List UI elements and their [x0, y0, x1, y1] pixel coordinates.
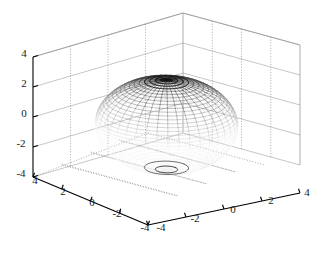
mesh-meridian-22-7	[142, 96, 145, 99]
mesh-meridian-28-12	[185, 115, 186, 119]
mesh-meridian-12-31	[128, 151, 132, 154]
mesh-meridian-7-29	[157, 138, 158, 142]
mesh-meridian-18-15	[102, 113, 104, 116]
mesh-meridian-1-29	[202, 143, 205, 146]
mesh-meridian-10-24	[125, 122, 126, 126]
mesh-meridian-38-30	[210, 153, 214, 156]
mesh-meridian-2-28	[198, 138, 200, 142]
mesh-meridian-2-31	[191, 148, 194, 151]
x-tick-mark-2	[223, 205, 225, 209]
y-tick-label-2: 0	[89, 196, 95, 208]
x-tick-mark-4	[299, 189, 301, 193]
mesh-meridian-23-8	[146, 100, 148, 103]
mesh-meridian-14-27	[108, 142, 111, 145]
mesh-meridian-14-24	[101, 132, 103, 136]
mesh-meridian-22-8	[140, 99, 143, 102]
mesh-meridian-11-26	[121, 131, 123, 135]
mesh-meridian-27-12	[177, 116, 178, 120]
mesh-meridian-20-15	[112, 119, 114, 123]
mesh-meridian-20-18	[110, 130, 111, 134]
x-tick-label-4: 4	[304, 186, 310, 198]
mesh-meridian-3-23	[196, 117, 197, 121]
mesh-meridian-4-28	[182, 135, 183, 139]
mesh-meridian-28-11	[184, 112, 185, 116]
mesh-meridian-30-12	[201, 113, 203, 117]
mesh-parallel-20	[95, 103, 238, 146]
mesh-meridian-3-24	[195, 121, 196, 125]
mesh-meridian-38-26	[224, 140, 227, 143]
mesh-meridian-34-9	[211, 96, 215, 99]
mesh-meridian-11-32	[136, 152, 139, 155]
mesh-meridian-3-28	[190, 136, 192, 140]
mesh-meridian-7-30	[158, 142, 159, 146]
mesh-meridian-27-6	[172, 95, 173, 98]
mesh-meridian-12-34	[140, 159, 144, 161]
y-axis-tick-labels: 420-2-4	[32, 174, 150, 233]
mesh-meridian-13-21	[102, 118, 103, 122]
mesh-parallel-22	[96, 111, 237, 154]
z-tick-label-2: 0	[21, 107, 27, 119]
mesh-meridian-9-27	[138, 132, 139, 136]
mesh-meridian-19-5	[138, 87, 142, 89]
sphere-mesh-surface	[95, 75, 238, 175]
mesh-meridian-25-7	[161, 98, 162, 101]
mesh-meridian-31-12	[208, 111, 210, 115]
z-tick-label-3: -2	[16, 137, 25, 149]
mesh-meridian-27-4	[170, 89, 171, 92]
mesh-meridian-39-26	[220, 137, 222, 140]
z-tick-label-1: 2	[21, 77, 27, 89]
mesh-meridian-31-7	[193, 95, 196, 98]
mesh-meridian-39-28	[214, 144, 217, 147]
mesh-meridian-24-3	[160, 86, 162, 88]
mesh-meridian-23-16	[136, 129, 137, 133]
z-tick-mark-2	[33, 115, 38, 117]
x-axis-tick-labels: -4-2024	[156, 186, 310, 233]
mesh-meridian-21-12	[124, 110, 126, 114]
mesh-meridian-3-25	[194, 125, 195, 129]
x-tick-label-0: -4	[156, 221, 166, 233]
mesh-meridian-5-29	[173, 138, 174, 142]
mesh-meridian-21-22	[118, 147, 119, 150]
mesh-meridian-30-17	[208, 132, 209, 136]
mesh-meridian-0-21	[223, 117, 224, 121]
mesh-meridian-30-15	[206, 124, 207, 128]
mesh-meridian-27-10	[175, 108, 176, 112]
mesh-meridian-24-12	[149, 115, 150, 119]
mesh-meridian-19-13	[110, 109, 112, 112]
mesh-meridian-7-31	[158, 145, 159, 149]
mesh-meridian-2-29	[195, 141, 197, 145]
mesh-meridian-14-30	[118, 152, 122, 155]
mesh-meridian-0-28	[210, 142, 213, 145]
mesh-meridian-2-26	[201, 130, 203, 134]
mesh-meridian-22-14	[129, 120, 130, 124]
z-tick-label-0: 4	[21, 47, 27, 59]
mesh-meridian-25-6	[161, 95, 162, 98]
mesh-meridian-8-24	[144, 119, 145, 123]
y-tick-label-4: -4	[140, 221, 150, 233]
mesh-meridian-9-32	[147, 150, 149, 153]
x-tick-label-1: -2	[190, 212, 199, 224]
mesh-meridian-28-2	[170, 84, 172, 86]
mesh-meridian-0-18	[223, 106, 224, 109]
mesh-meridian-5-32	[172, 149, 173, 152]
mesh-meridian-12-29	[122, 144, 125, 147]
mesh-meridian-35-17	[235, 119, 236, 123]
mesh-meridian-3-36	[174, 162, 176, 164]
mesh-meridian-5-33	[171, 152, 172, 155]
mesh-meridian-8-29	[149, 138, 150, 142]
mesh-meridian-21-6	[141, 92, 144, 95]
mesh-meridian-3-31	[185, 147, 187, 150]
mesh-meridian-29-16	[199, 130, 200, 134]
mesh-meridian-22-11	[133, 109, 135, 113]
mesh-meridian-13-35	[142, 163, 147, 165]
mesh-meridian-2-16	[205, 95, 206, 98]
mesh-meridian-29-12	[194, 114, 195, 118]
mesh-meridian-1-33	[189, 156, 192, 159]
mesh-meridian-25-3	[163, 86, 164, 89]
mesh-meridian-20-14	[114, 115, 116, 119]
mesh-meridian-7-33	[160, 152, 161, 155]
mesh-meridian-29-17	[199, 134, 200, 138]
mesh-meridian-30-4	[180, 88, 183, 91]
y-tick-label-3: -2	[112, 207, 121, 219]
mesh-parallel-18	[96, 97, 237, 140]
